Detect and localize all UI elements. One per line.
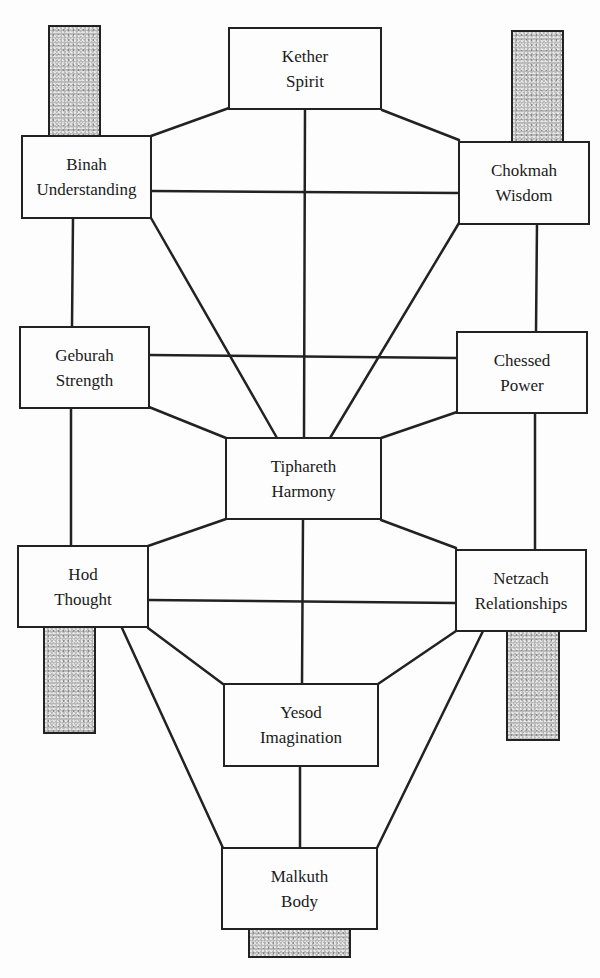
node-malkuth-name: Malkuth bbox=[271, 864, 329, 889]
shaded-bar-below-netzach bbox=[506, 630, 560, 741]
edge-kether-tiphareth bbox=[304, 108, 305, 438]
tree-of-life-diagram: Kether Spirit Binah Understanding Chokma… bbox=[0, 0, 600, 978]
node-malkuth-meaning: Body bbox=[281, 889, 318, 914]
node-kether-name: Kether bbox=[282, 44, 328, 69]
node-binah: Binah Understanding bbox=[21, 135, 152, 219]
node-netzach: Netzach Relationships bbox=[455, 549, 587, 632]
node-chessed: Chessed Power bbox=[456, 331, 588, 414]
node-yesod-meaning: Imagination bbox=[260, 725, 342, 750]
node-hod-name: Hod bbox=[68, 562, 97, 587]
edge-chokmah-chessed bbox=[536, 223, 537, 332]
node-hod: Hod Thought bbox=[17, 545, 149, 628]
edge-geburah-tiphareth bbox=[149, 407, 226, 438]
node-kether: Kether Spirit bbox=[228, 27, 382, 110]
node-netzach-meaning: Relationships bbox=[475, 591, 568, 616]
edge-netzach-malkuth bbox=[377, 631, 483, 848]
node-chokmah-meaning: Wisdom bbox=[496, 183, 553, 208]
node-hod-meaning: Thought bbox=[54, 587, 112, 612]
edge-hod-netzach bbox=[148, 600, 456, 603]
edge-tiphareth-netzach bbox=[381, 520, 456, 548]
edge-chessed-tiphareth bbox=[381, 412, 457, 438]
shaded-bar-below-hod bbox=[43, 626, 96, 734]
node-geburah: Geburah Strength bbox=[19, 326, 150, 409]
edge-tiphareth-hod bbox=[148, 519, 226, 546]
edge-kether-chokmah bbox=[382, 110, 459, 140]
shaded-bar-above-binah bbox=[48, 25, 101, 138]
node-malkuth: Malkuth Body bbox=[221, 847, 378, 930]
node-kether-meaning: Spirit bbox=[286, 69, 324, 94]
edge-hod-malkuth bbox=[122, 628, 223, 848]
node-binah-name: Binah bbox=[66, 152, 107, 177]
edge-binah-chokmah bbox=[151, 191, 459, 193]
edge-netzach-yesod bbox=[378, 631, 456, 684]
node-chessed-name: Chessed bbox=[494, 348, 551, 373]
node-yesod-name: Yesod bbox=[280, 700, 322, 725]
edge-hod-yesod bbox=[148, 628, 223, 684]
node-tiphareth-meaning: Harmony bbox=[271, 479, 335, 504]
edge-binah-tiphareth bbox=[151, 218, 277, 438]
shaded-bar-below-malkuth bbox=[248, 928, 351, 958]
node-tiphareth-name: Tiphareth bbox=[271, 454, 337, 479]
edge-binah-geburah bbox=[72, 218, 73, 327]
edge-geburah-chessed bbox=[149, 355, 457, 358]
node-geburah-name: Geburah bbox=[55, 343, 114, 368]
node-netzach-name: Netzach bbox=[493, 566, 549, 591]
node-binah-meaning: Understanding bbox=[36, 177, 136, 202]
node-yesod: Yesod Imagination bbox=[223, 683, 379, 767]
node-tiphareth: Tiphareth Harmony bbox=[225, 437, 382, 520]
shaded-bar-above-chokmah bbox=[511, 30, 564, 143]
node-chessed-meaning: Power bbox=[500, 373, 543, 398]
node-geburah-meaning: Strength bbox=[56, 368, 114, 393]
node-chokmah: Chokmah Wisdom bbox=[458, 141, 590, 225]
edge-kether-binah bbox=[151, 108, 229, 136]
node-chokmah-name: Chokmah bbox=[491, 158, 557, 183]
edge-chokmah-tiphareth bbox=[330, 223, 459, 438]
